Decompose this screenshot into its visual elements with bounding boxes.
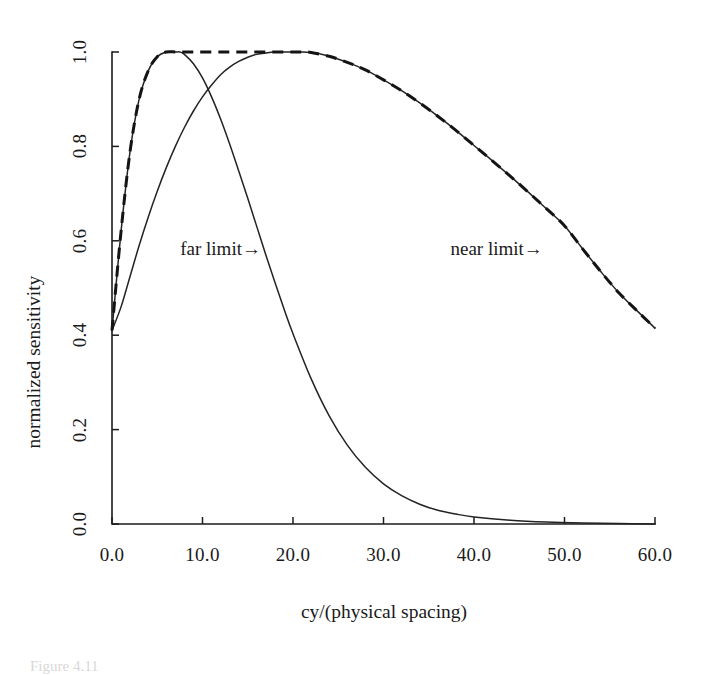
series-far-limit bbox=[112, 52, 655, 524]
y-tick-label: 0.6 bbox=[69, 228, 91, 253]
x-tick-label: 30.0 bbox=[366, 544, 400, 566]
series-envelope bbox=[112, 52, 655, 331]
y-tick-label: 0.4 bbox=[69, 323, 91, 348]
axis-spines bbox=[112, 52, 655, 524]
y-tick-label: 1.0 bbox=[69, 40, 91, 65]
y-tick-label: 0.2 bbox=[69, 417, 91, 442]
y-tick-label: 0.0 bbox=[69, 512, 91, 537]
x-tick-label: 40.0 bbox=[457, 544, 491, 566]
curve-annotation: far limit→ bbox=[180, 238, 261, 260]
y-tick-label: 0.8 bbox=[69, 134, 91, 159]
x-tick-label: 50.0 bbox=[547, 544, 581, 566]
x-axis-title: cy/(physical spacing) bbox=[301, 601, 467, 623]
chart-series-group bbox=[112, 52, 655, 524]
x-tick-label: 20.0 bbox=[276, 544, 310, 566]
chart-axes bbox=[112, 52, 655, 524]
x-tick-label: 10.0 bbox=[185, 544, 219, 566]
y-axis-title: normalized sensitivity bbox=[23, 276, 45, 449]
figure-caption: Figure 4.11 bbox=[30, 658, 99, 675]
series-near-limit bbox=[112, 52, 655, 331]
x-tick-label: 0.0 bbox=[100, 544, 125, 566]
curve-annotation: near limit→ bbox=[450, 238, 542, 260]
x-tick-label: 60.0 bbox=[638, 544, 672, 566]
